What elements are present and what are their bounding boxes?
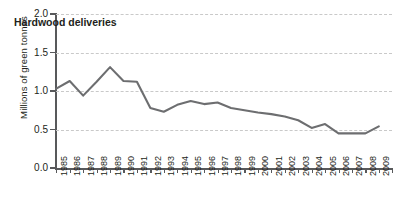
x-axis-tick bbox=[218, 168, 219, 173]
x-axis-tick bbox=[191, 168, 192, 173]
x-axis-tick bbox=[231, 168, 232, 173]
x-axis-tick bbox=[325, 168, 326, 173]
plot-area: 0.00.51.01.52.0 198519861987198819891990… bbox=[56, 14, 392, 168]
x-axis-tick bbox=[123, 168, 124, 173]
x-axis-tick bbox=[312, 168, 313, 173]
x-axis-tick bbox=[70, 168, 71, 173]
x-axis-tick bbox=[339, 168, 340, 173]
x-axis-tick bbox=[365, 168, 366, 173]
y-axis-tick-label: 1.0 bbox=[20, 86, 48, 96]
x-axis-tick bbox=[110, 168, 111, 173]
x-axis-tick bbox=[177, 168, 178, 173]
y-axis-tick-label: 1.5 bbox=[20, 48, 48, 58]
x-axis-tick bbox=[244, 168, 245, 173]
x-axis-tick bbox=[285, 168, 286, 173]
x-axis-tick bbox=[83, 168, 84, 173]
x-axis-tick bbox=[97, 168, 98, 173]
y-axis-tick-label: 0.5 bbox=[20, 125, 48, 135]
x-axis-tick bbox=[298, 168, 299, 173]
x-axis-tick bbox=[379, 168, 380, 173]
x-axis-tick bbox=[204, 168, 205, 173]
x-axis-tick bbox=[164, 168, 165, 173]
x-axis-tick bbox=[137, 168, 138, 173]
x-axis-tick bbox=[56, 168, 57, 173]
x-axis-tick bbox=[271, 168, 272, 173]
x-axis-tick bbox=[258, 168, 259, 173]
chart-title: Hardwood deliveries bbox=[14, 16, 117, 28]
x-axis-tick bbox=[150, 168, 151, 173]
x-axis-tick bbox=[392, 168, 393, 173]
line-series bbox=[56, 14, 392, 168]
y-axis-tick-label: 0.0 bbox=[20, 163, 48, 173]
chart-container: Millions of green tonnes 0.00.51.01.52.0… bbox=[0, 0, 410, 215]
x-axis-tick bbox=[352, 168, 353, 173]
